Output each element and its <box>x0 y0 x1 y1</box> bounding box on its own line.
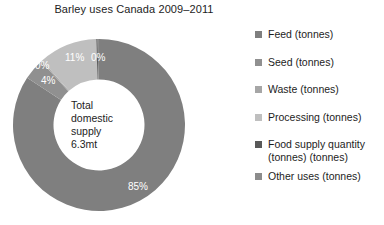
legend-swatch-icon <box>255 86 262 93</box>
legend-label: Other uses (tonnes) <box>268 170 361 183</box>
legend-label-line-2: (tonnes) (tonnes) <box>268 151 348 163</box>
legend-swatch-icon <box>255 141 262 148</box>
donut-svg <box>12 38 186 212</box>
chart-title: Barley uses Canada 2009–2011 <box>0 2 268 16</box>
chart-container: Barley uses Canada 2009–2011 Total domes… <box>0 0 384 225</box>
legend-item-other-uses[interactable]: Other uses (tonnes) <box>255 170 384 183</box>
legend-swatch-icon <box>255 59 262 66</box>
legend-swatch-icon <box>255 173 262 180</box>
legend-label: Processing (tonnes) <box>268 111 361 124</box>
legend-item-food-supply-quantity[interactable]: Food supply quantity(tonnes) (tonnes) <box>255 138 384 163</box>
donut-chart: Total domestic supply 6.3mt 85% 4% 0% 11… <box>12 38 186 212</box>
legend-label: Food supply quantity(tonnes) (tonnes) <box>268 138 365 163</box>
legend-label: Feed (tonnes) <box>268 28 333 41</box>
chart-legend: Feed (tonnes) Seed (tonnes) Waste (tonne… <box>255 28 384 198</box>
donut-slices <box>13 39 185 211</box>
legend-item-seed[interactable]: Seed (tonnes) <box>255 56 384 69</box>
legend-label: Seed (tonnes) <box>268 56 334 69</box>
legend-swatch-icon <box>255 114 262 121</box>
legend-item-processing[interactable]: Processing (tonnes) <box>255 111 384 124</box>
legend-label: Waste (tonnes) <box>268 83 339 96</box>
legend-label-line-1: Food supply quantity <box>268 138 365 150</box>
legend-swatch-icon <box>255 31 262 38</box>
legend-item-feed[interactable]: Feed (tonnes) <box>255 28 384 41</box>
legend-item-waste[interactable]: Waste (tonnes) <box>255 83 384 96</box>
